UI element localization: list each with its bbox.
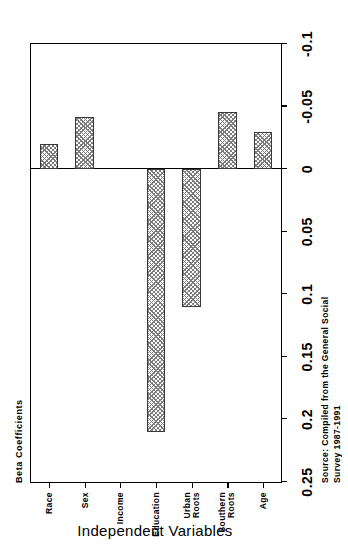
value-tick [281,168,287,169]
category-axis-title: Independent Variables [77,522,232,539]
bar [254,132,273,170]
bar [218,112,237,170]
value-axis-title: Beta Coefficients [14,43,24,483]
value-tick [281,105,287,106]
value-tick-label: -0.1 [299,31,315,57]
category-tick [120,482,121,488]
value-tick [281,43,287,44]
rotated-chart-stage: Beta Coefficients 0.250.20.150.10.050-0.… [0,0,348,545]
value-tick-label: 0.1 [299,284,315,305]
category-tick [263,482,264,488]
source-note: Source: Compiled from the General Social… [319,296,345,483]
value-tick [281,356,287,357]
plot-area: 0.250.20.150.10.050-0.05-0.1 AgeSouthern… [30,43,282,483]
category-tick [227,482,228,488]
category-tick [156,482,157,488]
category-tick-label: Urban Roots [183,492,201,519]
bar [182,169,201,307]
bar-chart-figure: Beta Coefficients 0.250.20.150.10.050-0.… [0,0,348,545]
bar [147,169,166,432]
value-tick-label: 0 [299,165,315,173]
value-tick [281,418,287,419]
value-tick [281,481,287,482]
value-tick-label: 0.2 [299,409,315,430]
category-tick-label: Age [259,492,268,509]
bar [75,117,94,170]
category-tick [85,482,86,488]
category-tick-label: Race [44,492,53,514]
value-tick [281,231,287,232]
category-tick [192,482,193,488]
category-tick [49,482,50,488]
category-tick-label: Sex [80,492,89,508]
value-tick-label: 0.15 [299,342,315,371]
value-tick [281,293,287,294]
category-tick-label: Income [116,492,125,524]
value-tick-label: 0.25 [299,467,315,496]
value-tick-label: 0.05 [299,217,315,246]
bar [40,144,59,169]
value-tick-label: -0.05 [299,89,315,123]
